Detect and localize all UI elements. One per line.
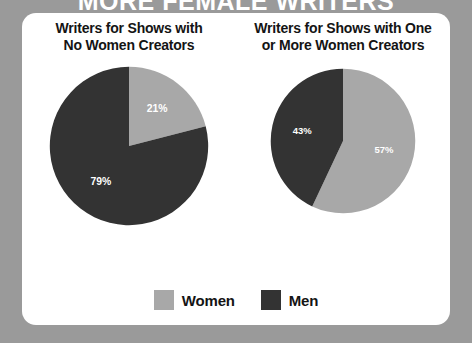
legend-label-women: Women bbox=[182, 292, 235, 309]
legend-item-women[interactable]: Women bbox=[154, 290, 235, 310]
pie-panel-one-or-more-women-creators: Writers for Shows with One or More Women… bbox=[236, 13, 450, 263]
pie-slices bbox=[271, 69, 416, 214]
pie-panel-title-line2: or More Women Creators bbox=[236, 37, 450, 54]
pie-chart-panels: Writers for Shows with No Women Creators… bbox=[22, 13, 450, 263]
pie-slice-label-women: 57% bbox=[374, 144, 394, 155]
pie-svg: 57% 43% bbox=[270, 68, 416, 214]
chart-card: Writers for Shows with No Women Creators… bbox=[22, 13, 450, 325]
pie-panel-title-line2: No Women Creators bbox=[22, 37, 236, 54]
pie-svg: 21% 79% bbox=[49, 66, 209, 226]
chart-legend: Women Men bbox=[22, 285, 450, 315]
pie-slice-label-women: 21% bbox=[147, 103, 168, 114]
legend-swatch-men bbox=[261, 290, 281, 310]
pie-chart-no-women-creators: 21% 79% bbox=[49, 66, 209, 226]
pie-chart-one-or-more-women-creators: 57% 43% bbox=[270, 68, 416, 214]
pie-slices bbox=[50, 67, 208, 225]
pie-panel-title-line1: Writers for Shows with bbox=[22, 20, 236, 37]
pie-panel-no-women-creators: Writers for Shows with No Women Creators… bbox=[22, 13, 236, 263]
legend-item-men[interactable]: Men bbox=[261, 290, 318, 310]
pie-slice-label-men: 43% bbox=[293, 125, 313, 136]
pie-panel-title-line1: Writers for Shows with One bbox=[236, 20, 450, 37]
pie-slice-label-men: 79% bbox=[90, 176, 111, 187]
legend-swatch-women bbox=[154, 290, 174, 310]
legend-label-men: Men bbox=[289, 292, 318, 309]
pie-panel-title: Writers for Shows with One or More Women… bbox=[236, 20, 450, 54]
pie-panel-title: Writers for Shows with No Women Creators bbox=[22, 20, 236, 54]
